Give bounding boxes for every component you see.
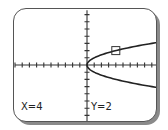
y-readout: Y=2 — [91, 101, 112, 112]
x-readout: X=4 — [21, 101, 43, 112]
